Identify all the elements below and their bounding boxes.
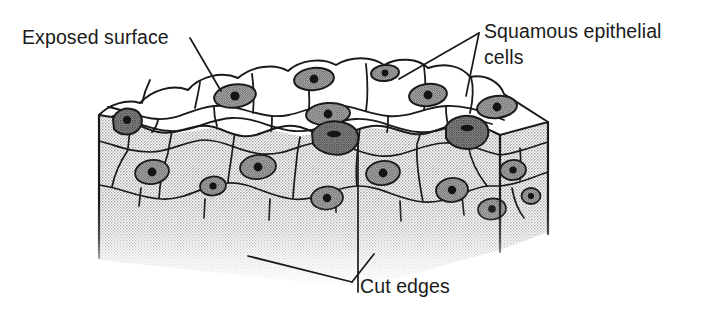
nucleus [522,188,541,204]
label-exposed-surface: Exposed surface [22,26,169,48]
nucleolus [148,168,157,177]
nucleolus [382,70,389,77]
nucleolus [461,125,474,131]
nucleolus [379,169,388,178]
nucleolus [310,75,319,84]
nucleolus [424,91,433,100]
front-cell-root [400,201,401,221]
front-cell-root [269,199,270,220]
label-squamous-cells-line1: Squamous epithelial [484,20,662,42]
right-cut-face [500,122,548,250]
label-cut-edges: Cut edges [360,275,450,297]
top-cell-boundary [271,117,272,131]
nucleus-on-rim [312,121,358,154]
nucleolus [448,186,456,194]
nucleolus [123,116,131,124]
nucleolus [493,103,502,112]
nucleolus [488,205,496,213]
nucleolus [323,194,331,202]
front-cell-boundary [356,157,357,186]
nucleolus [509,166,516,173]
label-squamous-cells-line2: cells [484,46,524,68]
nucleolus [254,163,263,172]
epithelium-diagram: Exposed surface Squamous epithelial cell… [0,0,703,312]
figure-root: Exposed surface Squamous epithelial cell… [0,0,703,312]
nucleolus [230,91,239,100]
nucleolus [209,182,216,189]
nucleolus [528,193,534,199]
top-cell-boundary [387,117,388,132]
nucleus-on-rim [446,116,488,149]
front-cell-root [204,199,205,218]
nucleolus [327,131,341,137]
nucleus-on-rim [113,108,142,134]
nucleolus [324,110,333,119]
